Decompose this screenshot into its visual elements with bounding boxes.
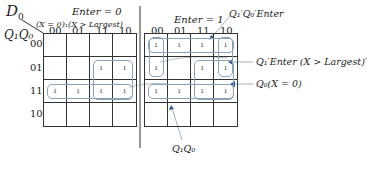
right-cell-10-01: [168, 103, 191, 126]
right-cell-01-01: [168, 57, 191, 80]
annotation-q1enter-xlargest: Q₁′Enter (X > Largest)′: [256, 56, 367, 67]
right-map-title: Enter = 1: [174, 14, 224, 25]
right-cell-10-10: [214, 103, 237, 126]
annotation-q1q0: Q₁Q₀: [172, 143, 195, 154]
left-cell-10-11: [90, 103, 113, 126]
right-cell-10-00: [145, 103, 168, 126]
annotation-q0-x0: Q₀(X = 0): [256, 78, 302, 89]
left-cell-01-01: [67, 57, 90, 80]
left-map-title: Enter = 0: [72, 6, 122, 17]
left-cell-10-00: [44, 103, 67, 126]
right-loop-col00: [149, 37, 164, 77]
left-cell-01-00: [44, 57, 67, 80]
left-loop-square: [93, 60, 133, 100]
right-cell-10-11: [191, 103, 214, 126]
left-cell-00-01: [67, 34, 90, 57]
left-cell-00-10: [113, 34, 136, 57]
right-kmap-grid: 1 1 1 1 1 1 1 1 1 1 1: [144, 33, 238, 127]
row-header-0: 00: [30, 38, 43, 49]
left-cell-10-10: [113, 103, 136, 126]
left-cell-10-01: [67, 103, 90, 126]
row-header-2: 11: [30, 85, 43, 96]
row-header-1: 01: [30, 62, 43, 73]
right-loop-row11: [148, 84, 234, 99]
row-header-3: 10: [30, 108, 43, 119]
annotation-q1q0enter: Q₁′Q₀′Enter: [229, 8, 284, 19]
left-kmap-grid: 1 1 1 1 1 1: [43, 33, 137, 127]
left-cell-00-11: [90, 34, 113, 57]
left-cell-00-00: [44, 34, 67, 57]
